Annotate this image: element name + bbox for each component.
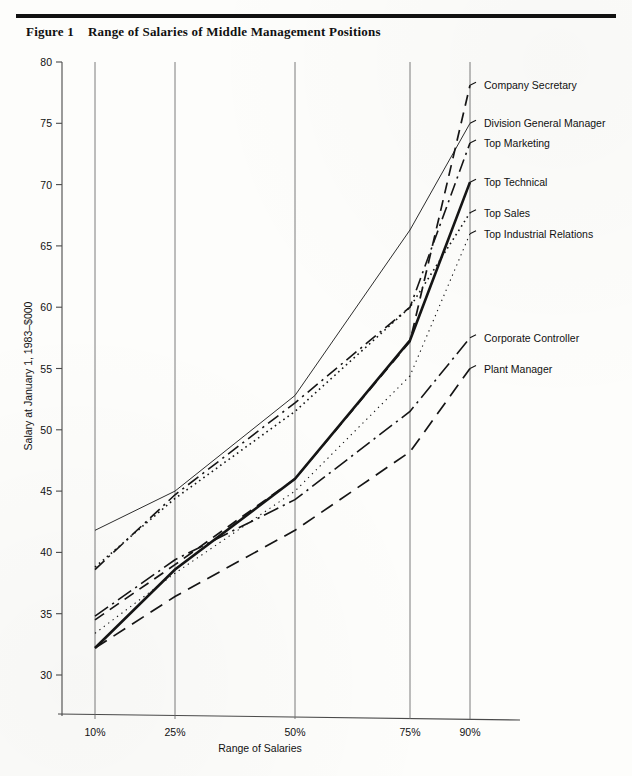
- x-tick-label-50: 50%: [284, 726, 305, 738]
- series-line-corporate-controller: [95, 338, 470, 616]
- x-axis-line: [58, 714, 520, 720]
- y-tick-label-30: 30: [26, 669, 52, 681]
- series-leader-tick: [470, 335, 476, 338]
- y-tick-label-40: 40: [26, 546, 52, 558]
- series-leader-tick: [470, 179, 476, 182]
- y-tick-label-60: 60: [26, 301, 52, 313]
- series-label-corporate-controller: Corporate Controller: [484, 332, 579, 344]
- series-line-company-secretary: [95, 85, 470, 620]
- y-tick-label-35: 35: [26, 608, 52, 620]
- series-leader-tick: [470, 82, 476, 85]
- series-label-division-general-manager: Division General Manager: [484, 117, 605, 129]
- x-tick-label-25: 25%: [164, 726, 185, 738]
- y-tick-label-65: 65: [26, 240, 52, 252]
- series-line-plant-manager: [95, 369, 470, 649]
- y-tick-label-70: 70: [26, 179, 52, 191]
- y-tick-label-55: 55: [26, 363, 52, 375]
- y-tick-label-50: 50: [26, 424, 52, 436]
- x-tick-label-10: 10%: [84, 726, 105, 738]
- series-leader-tick: [470, 210, 476, 213]
- series-label-top-marketing: Top Marketing: [484, 137, 550, 149]
- series-line-top-marketing: [95, 143, 470, 570]
- series-leader-tick: [470, 366, 476, 369]
- series-line-top-technical: [95, 182, 470, 648]
- y-tick-label-45: 45: [26, 485, 52, 497]
- series-line-top-industrial-relations: [95, 234, 470, 634]
- series-label-company-secretary: Company Secretary: [484, 79, 577, 91]
- x-axis-label: Range of Salaries: [0, 742, 520, 754]
- series-line-top-sales: [95, 213, 470, 567]
- series-leader-tick: [470, 120, 476, 123]
- salary-range-line-chart: Salary at January 1, 1983–$000 Range of …: [0, 0, 632, 776]
- series-leader-tick: [470, 231, 476, 234]
- y-tick-label-75: 75: [26, 117, 52, 129]
- x-tick-label-75: 75%: [399, 726, 420, 738]
- series-label-top-industrial-relations: Top Industrial Relations: [484, 228, 593, 240]
- series-label-top-technical: Top Technical: [484, 176, 547, 188]
- figure-page: Figure 1Range of Salaries of Middle Mana…: [0, 0, 632, 776]
- series-label-top-sales: Top Sales: [484, 207, 530, 219]
- y-tick-label-80: 80: [26, 56, 52, 68]
- series-label-plant-manager: Plant Manager: [484, 363, 552, 375]
- x-tick-label-90: 90%: [459, 726, 480, 738]
- series-leader-tick: [470, 140, 476, 143]
